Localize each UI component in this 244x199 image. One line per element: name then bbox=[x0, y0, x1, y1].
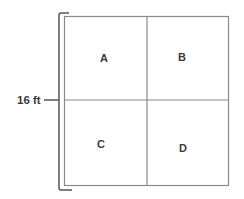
quadrant-label-b: B bbox=[178, 51, 186, 63]
quadrant-label-a: A bbox=[100, 52, 108, 64]
dimension-label: 16 ft bbox=[17, 94, 41, 106]
dimension-bracket bbox=[59, 13, 72, 190]
square-diagram: 16 ft A B C D bbox=[0, 0, 244, 199]
quadrant-label-c: C bbox=[97, 138, 105, 150]
quadrant-label-d: D bbox=[179, 142, 187, 154]
